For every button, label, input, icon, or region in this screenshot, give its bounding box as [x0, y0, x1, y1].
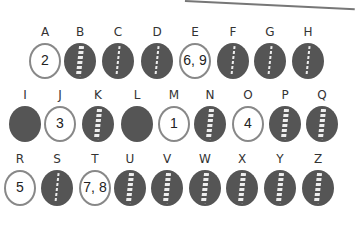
top-border-line [185, 0, 355, 10]
disc-letter-label: B [60, 25, 100, 39]
disc-letter-label: P [265, 88, 305, 102]
cracked-disc-icon [189, 170, 221, 206]
disc-letter-label: X [222, 152, 262, 166]
crack-line-icon [126, 173, 134, 203]
cracked-disc-icon [121, 106, 153, 142]
disc-letter-label: K [78, 88, 118, 102]
numbered-disc: 7, 8 [79, 170, 111, 206]
numbered-disc: 6, 9 [179, 43, 211, 79]
disc-letter-label: C [98, 25, 138, 39]
numbered-disc: 5 [4, 170, 36, 206]
disc-item-o: O4 [228, 88, 268, 142]
disc-letter-label: H [288, 25, 328, 39]
numbered-disc: 4 [232, 106, 264, 142]
cracked-disc-icon [82, 106, 114, 142]
disc-item-e: E6, 9 [175, 25, 215, 79]
disc-number: 5 [4, 179, 36, 195]
disc-item-z: Z [298, 152, 338, 206]
disc-item-h: H [288, 25, 328, 79]
cracked-disc-icon [306, 106, 338, 142]
disc-letter-label: W [185, 152, 225, 166]
cracked-disc-icon [269, 106, 301, 142]
disc-letter-label: O [228, 88, 268, 102]
disc-item-v: V [147, 152, 187, 206]
crack-line-icon [154, 46, 159, 76]
cracked-disc-icon [254, 43, 286, 79]
disc-number: 1 [158, 115, 190, 131]
crack-line-icon [54, 173, 59, 203]
disc-number: 6, 9 [179, 52, 211, 68]
disc-item-r: R5 [0, 152, 40, 206]
disc-item-i: I [5, 88, 45, 142]
disc-letter-label: T [75, 152, 115, 166]
disc-item-c: C [98, 25, 138, 79]
cracked-disc-icon [102, 43, 134, 79]
disc-letter-label: Q [302, 88, 342, 102]
disc-letter-label: V [147, 152, 187, 166]
disc-letter-label: I [5, 88, 45, 102]
disc-item-p: P [265, 88, 305, 142]
disc-item-g: G [250, 25, 290, 79]
disc-letter-label: M [154, 88, 194, 102]
disc-item-u: U [110, 152, 150, 206]
crack-line-icon [276, 173, 284, 203]
disc-number: 2 [29, 52, 61, 68]
disc-item-y: Y [260, 152, 300, 206]
cracked-disc-icon [217, 43, 249, 79]
crack-line-icon [281, 109, 289, 139]
crack-line-icon [318, 109, 326, 139]
crack-line-icon [115, 46, 120, 76]
disc-letter-label: L [117, 88, 157, 102]
numbered-disc: 2 [29, 43, 61, 79]
disc-item-b: B [60, 25, 100, 79]
disc-letter-label: S [37, 152, 77, 166]
disc-number: 7, 8 [79, 179, 111, 195]
cracked-disc-icon [41, 170, 73, 206]
crack-line-icon [267, 46, 272, 76]
disc-item-f: F [213, 25, 253, 79]
disc-number: 3 [44, 115, 76, 131]
disc-letter-label: Z [298, 152, 338, 166]
disc-item-k: K [78, 88, 118, 142]
disc-item-d: D [137, 25, 177, 79]
crack-line-icon [76, 46, 84, 76]
cracked-disc-icon [226, 170, 258, 206]
cracked-disc-icon [64, 43, 96, 79]
cracked-disc-icon [141, 43, 173, 79]
disc-letter-label: J [40, 88, 80, 102]
disc-item-q: Q [302, 88, 342, 142]
crack-line-icon [305, 46, 310, 76]
numbered-disc: 1 [158, 106, 190, 142]
disc-letter-label: N [190, 88, 230, 102]
cracked-disc-icon [302, 170, 334, 206]
crack-line-icon [94, 109, 102, 139]
cracked-disc-icon [194, 106, 226, 142]
numbered-disc: 3 [44, 106, 76, 142]
cracked-disc-icon [264, 170, 296, 206]
disc-item-s: S [37, 152, 77, 206]
disc-item-a: A2 [25, 25, 65, 79]
disc-letter-label: D [137, 25, 177, 39]
disc-letter-label: Y [260, 152, 300, 166]
crack-line-icon [238, 173, 246, 203]
cracked-disc-icon [151, 170, 183, 206]
disc-letter-label: R [0, 152, 40, 166]
disc-item-w: W [185, 152, 225, 206]
disc-item-m: M1 [154, 88, 194, 142]
disc-letter-label: A [25, 25, 65, 39]
disc-item-n: N [190, 88, 230, 142]
crack-line-icon [230, 46, 235, 76]
disc-number: 4 [232, 115, 264, 131]
disc-item-t: T7, 8 [75, 152, 115, 206]
cracked-disc-icon [292, 43, 324, 79]
crack-line-icon [163, 173, 171, 203]
disc-item-l: L [117, 88, 157, 142]
disc-letter-label: E [175, 25, 215, 39]
cracked-disc-icon [114, 170, 146, 206]
disc-letter-label: G [250, 25, 290, 39]
crack-line-icon [201, 173, 209, 203]
crack-line-icon [314, 173, 322, 203]
crack-line-icon [206, 109, 214, 139]
disc-letter-label: F [213, 25, 253, 39]
cracked-disc-icon [9, 106, 41, 142]
